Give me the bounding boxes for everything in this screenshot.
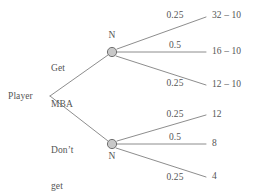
probability-upper-3: 0.25 [160, 77, 190, 89]
decision-label-get-mba-line2: MBA [51, 98, 91, 110]
decision-label-dont-get-mba-line2: get [51, 180, 96, 192]
chance-node-lower-label: N [104, 150, 120, 162]
probability-lower-2: 0.5 [162, 131, 188, 143]
payoff-upper-2: 16 – 10 [212, 45, 255, 57]
decision-label-dont-get-mba-line1: Don’t [51, 144, 96, 156]
chance-node-upper [107, 47, 116, 56]
probability-lower-1: 0.25 [160, 108, 190, 120]
chance-node-lower [107, 139, 116, 148]
player-label: Player [8, 90, 48, 102]
probability-upper-2: 0.5 [162, 39, 188, 51]
payoff-lower-3: 4 [212, 170, 255, 182]
payoff-upper-3: 12 – 10 [212, 78, 255, 90]
decision-label-get-mba-line1: Get [51, 62, 91, 74]
payoff-lower-2: 8 [212, 137, 255, 149]
probability-lower-3: 0.25 [160, 171, 190, 183]
decision-tree-diagram: Player Get MBA Don’t get MBA N N 0.25 0.… [0, 0, 255, 192]
probability-upper-1: 0.25 [160, 9, 190, 21]
payoff-upper-1: 32 – 10 [212, 9, 255, 21]
payoff-lower-1: 12 [212, 108, 255, 120]
chance-node-upper-label: N [104, 29, 120, 41]
decision-label-dont-get-mba: Don’t get MBA [51, 120, 96, 192]
